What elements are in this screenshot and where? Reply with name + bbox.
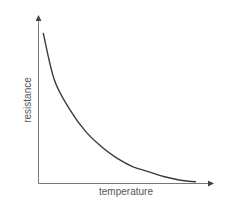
chart-canvas — [0, 0, 230, 210]
x-axis-label: temperature — [38, 186, 214, 197]
y-axis-label: resistance — [22, 77, 33, 123]
resistance-curve — [43, 33, 196, 182]
